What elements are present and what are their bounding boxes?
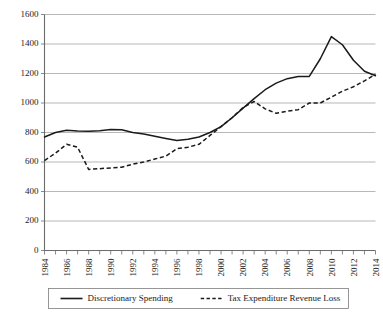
x-tick-label-1992: 1992 bbox=[128, 259, 138, 277]
x-tick-label-1998: 1998 bbox=[194, 258, 204, 277]
legend-label-0: Discretionary Spending bbox=[88, 293, 174, 303]
x-tick-label-2008: 2008 bbox=[305, 258, 315, 277]
x-tick-label-2002: 2002 bbox=[238, 259, 248, 277]
y-tick-label-0: 0 bbox=[34, 245, 39, 255]
x-tick-label-2014: 2014 bbox=[371, 258, 381, 277]
y-axis-tick-labels: 02004006008001000120014001600 bbox=[21, 9, 40, 255]
x-tick-label-2012: 2012 bbox=[349, 259, 359, 277]
chart-canvas: 02004006008001000120014001600 1984198619… bbox=[0, 0, 383, 315]
line-chart: 02004006008001000120014001600 1984198619… bbox=[0, 0, 383, 315]
x-tick-label-1986: 1986 bbox=[62, 258, 72, 277]
x-tick-label-1996: 1996 bbox=[172, 258, 182, 277]
x-tick-label-1984: 1984 bbox=[40, 258, 50, 277]
x-tick-label-2000: 2000 bbox=[216, 258, 226, 277]
series-line-1 bbox=[45, 74, 376, 169]
x-tick-label-1988: 1988 bbox=[84, 258, 94, 277]
y-tick-label-600: 600 bbox=[25, 156, 39, 166]
y-tick-label-1000: 1000 bbox=[21, 97, 40, 107]
x-tick-label-2010: 2010 bbox=[327, 258, 337, 277]
x-tick-label-2006: 2006 bbox=[282, 258, 292, 277]
legend-label-1: Tax Expenditure Revenue Loss bbox=[228, 293, 341, 303]
y-tick-label-200: 200 bbox=[25, 215, 39, 225]
y-tick-label-1600: 1600 bbox=[21, 9, 40, 19]
x-axis-tick-marks bbox=[45, 251, 376, 255]
y-tick-label-1200: 1200 bbox=[21, 68, 40, 78]
y-tick-label-400: 400 bbox=[25, 186, 39, 196]
x-tick-label-1990: 1990 bbox=[106, 258, 116, 277]
x-tick-label-1994: 1994 bbox=[150, 258, 160, 277]
x-axis-tick-labels: 1984198619881990199219941996199820002002… bbox=[40, 258, 381, 277]
chart-legend: Discretionary SpendingTax Expenditure Re… bbox=[49, 289, 349, 309]
y-tick-label-1400: 1400 bbox=[21, 38, 40, 48]
series-line-0 bbox=[45, 37, 376, 141]
x-tick-label-2004: 2004 bbox=[260, 258, 270, 277]
y-tick-label-800: 800 bbox=[25, 127, 39, 137]
